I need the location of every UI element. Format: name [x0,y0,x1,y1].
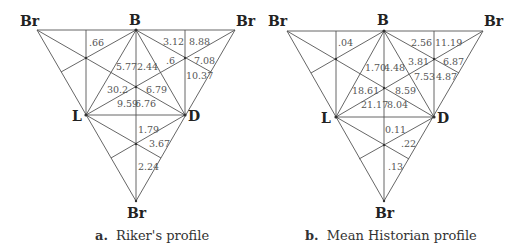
value-right-mid: .6 [166,55,175,66]
vertex-label-br-bottom: Br [127,205,147,221]
value-b-right-upper: 2.56 [411,37,432,48]
caption-b-text: Mean Historian profile [327,228,477,243]
value-center-left: 18.61 [352,85,379,96]
value-bottom-right: 3.67 [149,138,170,149]
value-center-right: 8.59 [395,85,416,96]
profile-diagrams: Br B Br L D Br .66 3.12 8.88 5.77 2.44 .… [0,0,520,252]
value-right-outer: 7.08 [194,55,215,66]
value-ld-right: 6.76 [135,98,156,109]
value-bottom-upper: 1.79 [138,124,159,135]
vertex-label-br-bottom: Br [375,205,395,221]
vertex-label-br-top-right: Br [484,13,504,29]
vertex-label-l: L [72,108,82,124]
value-right-lower: 4.87 [436,71,457,82]
value-right-mid: 3.81 [408,56,429,67]
value-b-l-left: 5.77 [116,61,137,72]
vertex-label-d: D [188,108,200,124]
value-right-inner: 7.53 [414,71,435,82]
caption-a: a. Riker's profile [95,228,209,243]
vertex-label-br-top-left: Br [268,13,288,29]
value-b-l-left: 1.70 [365,62,386,73]
value-center-right: 6.79 [146,84,167,95]
value-top-left: .04 [338,37,353,48]
value-bottom-lower: 2.24 [138,161,159,172]
vertex-label-b: B [377,12,389,28]
value-ld-right: 8.04 [387,99,408,110]
vertex-label-br-top-left: Br [20,13,40,29]
caption-b-prefix: b. [305,228,319,243]
caption-a-prefix: a. [95,228,108,243]
value-top-left: .66 [89,37,104,48]
vertex-label-br-top-right: Br [236,13,256,29]
value-center-left: 30.2 [107,84,128,95]
value-right-outer: 6.87 [443,56,464,67]
value-b-l-right: 2.44 [137,61,158,72]
vertex-label-d: D [437,110,449,126]
caption-a-text: Riker's profile [116,228,209,243]
vertex-label-b: B [129,12,141,28]
value-top-right: 11.19 [435,37,462,48]
value-top-right: 8.88 [189,36,210,47]
value-right-lower: 10.37 [186,70,213,81]
value-b-right-upper: 3.12 [163,36,184,47]
value-bottom-lower: .13 [388,161,403,172]
value-ld-left: 21.17 [361,99,388,110]
caption-b: b. Mean Historian profile [305,228,477,243]
value-b-l-right: 4.48 [384,62,405,73]
value-bottom-right: .22 [401,138,416,149]
value-bottom-upper: 0.11 [385,124,406,135]
vertex-label-l: L [321,110,331,126]
